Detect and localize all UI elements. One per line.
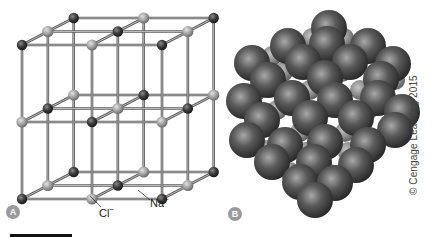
chloride-ion-sphere: [297, 182, 333, 218]
chloride-ion: [69, 13, 79, 23]
nacl-figure: [0, 0, 435, 237]
copyright-notice: © Cengage Learning 2015: [408, 75, 419, 195]
sodium-ion: [182, 180, 193, 191]
chloride-charge: −: [109, 205, 114, 214]
space-filling-model: [226, 10, 420, 218]
chloride-symbol: Cl: [99, 207, 109, 219]
sodium-ion: [68, 89, 79, 100]
chloride-label: Cl−: [99, 205, 114, 219]
footer-rule: [10, 234, 72, 237]
chloride-ion: [183, 103, 193, 113]
chloride-ion: [17, 40, 27, 50]
chloride-ion: [43, 103, 53, 113]
chloride-ion: [113, 180, 123, 190]
sodium-symbol: Na: [150, 197, 164, 209]
sodium-charge: +: [164, 195, 169, 204]
chloride-ion: [209, 13, 219, 23]
sodium-ion: [16, 116, 27, 127]
chloride-ion: [113, 26, 123, 36]
panel-b-badge: B: [228, 207, 242, 221]
chloride-ion: [139, 90, 149, 100]
sodium-ion: [112, 103, 123, 114]
sodium-label: Na+: [150, 195, 169, 209]
sodium-ion: [42, 180, 53, 191]
sodium-ion: [182, 26, 193, 37]
sodium-ion: [86, 193, 97, 204]
sodium-ion: [138, 166, 149, 177]
sodium-ion: [138, 12, 149, 23]
chloride-ion: [157, 40, 167, 50]
chloride-ion: [209, 167, 219, 177]
chloride-ion: [17, 194, 27, 204]
sodium-ion: [86, 39, 97, 50]
chloride-ion: [87, 117, 97, 127]
chloride-ion: [69, 167, 79, 177]
ball-and-stick-lattice: [16, 12, 219, 204]
sodium-ion: [42, 26, 53, 37]
sodium-ion: [208, 89, 219, 100]
sodium-ion: [156, 116, 167, 127]
panel-a-badge: A: [6, 205, 20, 219]
